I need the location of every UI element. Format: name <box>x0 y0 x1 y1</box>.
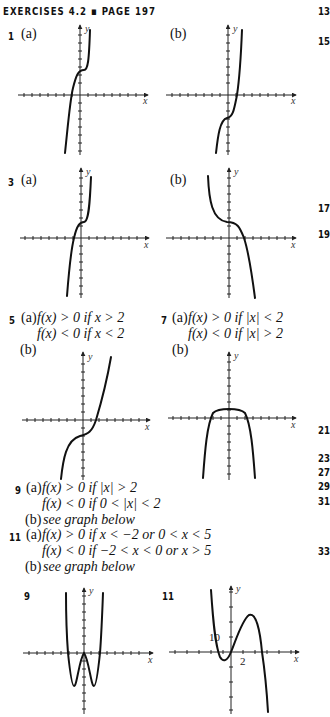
graph-9: x y <box>23 585 153 714</box>
graph-3b: x y <box>166 166 296 298</box>
x-axis-label: x <box>290 95 296 106</box>
graph-11: x y 10 2 <box>169 583 299 714</box>
x-axis-label: x <box>143 239 149 250</box>
x-tick-label: 2 <box>240 655 246 667</box>
y-axis-label: y <box>85 166 91 177</box>
y-axis-label: y <box>87 351 93 362</box>
y-axis-label: y <box>235 583 241 594</box>
graph-7b: x y <box>168 350 296 480</box>
graph-5b: x y <box>22 351 150 480</box>
y-axis-label: y <box>233 166 239 177</box>
graph-3a: x y <box>20 166 149 298</box>
graph-1a: x y <box>18 23 148 155</box>
x-axis-label: x <box>142 95 148 106</box>
graph-1b: x y <box>166 23 296 155</box>
y-axis-label: y <box>232 23 238 34</box>
y-axis-label: y <box>88 585 94 596</box>
x-axis-label: x <box>290 239 296 250</box>
y-axis-label: y <box>233 350 239 361</box>
x-axis-label: x <box>144 421 150 432</box>
x-axis-label: x <box>290 419 296 430</box>
x-axis-label: x <box>147 654 153 665</box>
x-axis-label: x <box>293 653 299 664</box>
